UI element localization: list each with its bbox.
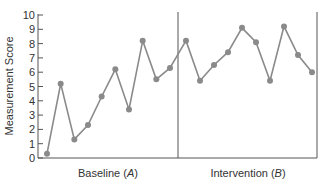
data-point [140,38,146,44]
data-line [47,26,312,153]
y-tick-label: 8 [29,38,35,50]
y-tick-label: 4 [29,95,35,107]
data-point [153,76,159,82]
data-point [126,106,132,112]
y-tick-label: 3 [29,109,35,121]
data-point [167,65,173,71]
y-tick-label: 10 [23,9,35,21]
data-point [58,81,64,87]
baseline-phase-label: Baseline (A) [78,167,138,179]
y-tick-label: 5 [29,81,35,93]
data-point [197,78,203,84]
y-axis-title: Measurement Score [3,36,15,135]
data-point [295,52,301,58]
data-markers [44,23,315,156]
data-point [211,62,217,68]
y-tick-label: 0 [29,152,35,164]
data-point [309,69,315,75]
data-point [71,136,77,142]
data-point [281,23,287,29]
data-point [99,94,105,100]
y-tick-label: 7 [29,52,35,64]
y-tick-label: 6 [29,66,35,78]
y-axis-ticks: 012345678910 [23,9,43,164]
data-point [85,122,91,128]
data-point [239,25,245,31]
data-point [253,39,259,45]
y-tick-label: 2 [29,123,35,135]
data-point [267,78,273,84]
data-point [225,49,231,55]
data-point [183,38,189,44]
data-point [44,151,50,157]
intervention-phase-label: Intervention (B) [210,167,285,179]
y-tick-label: 9 [29,23,35,35]
y-tick-label: 1 [29,138,35,150]
single-case-design-chart: 012345678910 Measurement Score Baseline … [0,0,325,187]
data-point [112,66,118,72]
